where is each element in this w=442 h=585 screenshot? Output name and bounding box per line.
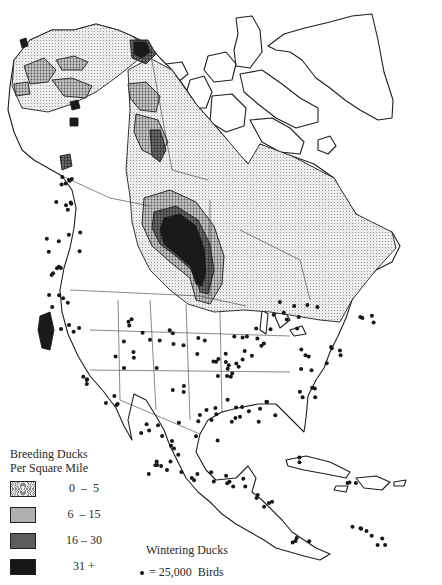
wintering-duck-dot [243, 485, 247, 489]
wintering-duck-dot [59, 266, 63, 270]
wintering-duck-dot [172, 447, 176, 451]
wintering-duck-dot [370, 534, 374, 538]
wintering-duck-dot [169, 444, 173, 448]
wintering-duck-dot [203, 338, 207, 342]
wintering-duck-dot [224, 352, 228, 356]
wintering-duck-dot [231, 484, 235, 488]
duck-distribution-map [0, 0, 442, 585]
wintering-duck-dot [210, 418, 214, 422]
wintering-duck-dot [301, 395, 305, 399]
wintering-duck-dot [81, 375, 85, 379]
wintering-duck-dot [205, 408, 209, 412]
wintering-duck-dot [60, 183, 64, 187]
wintering-duck-dot [195, 472, 199, 476]
wintering-duck-dot [269, 327, 273, 331]
breeding-legend-title-line1: Breeding Ducks [10, 447, 88, 461]
wintering-duck-dot [153, 463, 157, 467]
wintering-duck-dot [245, 335, 249, 339]
legend-label: 0 – 5 [54, 481, 114, 496]
wintering-duck-dot [370, 314, 374, 318]
wintering-duck-dot [351, 525, 355, 529]
legend-swatch-dark [10, 533, 36, 549]
wintering-duck-dot [265, 400, 269, 404]
caribbean-islands [286, 456, 406, 492]
wintering-legend-label: = 25,000 Birds [149, 565, 224, 579]
wintering-duck-dot [104, 401, 108, 405]
wintering-duck-dot [57, 293, 61, 297]
wintering-duck-dot [45, 237, 49, 241]
wintering-duck-dot [122, 340, 126, 344]
wintering-duck-dot [240, 405, 244, 409]
wintering-duck-dot [305, 303, 309, 307]
wintering-duck-dot [380, 537, 384, 541]
wintering-duck-dot [176, 453, 180, 457]
wintering-duck-dot [213, 406, 217, 410]
wintering-duck-dot [182, 390, 186, 394]
wintering-duck-dot [313, 395, 317, 399]
wintering-duck-dot [78, 249, 82, 253]
wintering-duck-dot [50, 305, 54, 309]
wintering-duck-dot [216, 439, 220, 443]
wintering-duck-dot [148, 338, 152, 342]
wintering-duck-dot [172, 342, 176, 346]
wintering-duck-dot [259, 344, 263, 348]
wintering-duck-dot [60, 175, 64, 179]
wintering-duck-dot [232, 335, 236, 339]
wintering-duck-dot [195, 352, 199, 356]
wintering-duck-dot [243, 349, 247, 353]
legend-label: 16 – 30 [54, 533, 114, 548]
wintering-duck-dot [297, 456, 301, 460]
wintering-legend-row: = 25,000 Birds [140, 565, 224, 580]
wintering-duck-dot [47, 250, 51, 254]
wintering-duck-dot [54, 200, 58, 204]
wintering-duck-dot [116, 402, 120, 406]
wintering-duck-dot [139, 431, 143, 435]
wintering-duck-dot [346, 481, 350, 485]
wintering-duck-dot [241, 477, 245, 481]
wintering-duck-dot [69, 202, 73, 206]
wintering-duck-dot [238, 415, 242, 419]
breeding-legend-title: Breeding Ducks Per Square Mile [10, 447, 88, 475]
wintering-duck-dot [194, 434, 198, 438]
legend-swatch-light [10, 481, 36, 497]
wintering-duck-dot [298, 460, 302, 464]
wintering-duck-dot [59, 327, 63, 331]
wintering-duck-dot [257, 420, 261, 424]
wintering-duck-dot [70, 177, 74, 181]
wintering-duck-dot [122, 366, 126, 370]
wintering-duck-dot [165, 468, 169, 472]
wintering-duck-dot [179, 470, 183, 474]
wintering-duck-dot [258, 407, 262, 411]
wintering-duck-dot [147, 472, 151, 476]
wintering-duck-dot [170, 439, 174, 443]
wintering-duck-dot [272, 313, 276, 317]
wintering-duck-dot [212, 480, 216, 484]
wintering-duck-dot [130, 317, 134, 321]
legend-label: 31 + [54, 559, 114, 574]
wintering-duck-dot [57, 239, 61, 243]
wintering-duck-dot [241, 357, 245, 361]
wintering-duck-dot [298, 390, 302, 394]
wintering-duck-dot [64, 203, 68, 207]
wintering-duck-dot [304, 353, 308, 357]
wintering-duck-dot [282, 311, 286, 315]
wintering-duck-dot [262, 505, 266, 509]
wintering-duck-dot [325, 361, 329, 365]
wintering-duck-dot [112, 394, 116, 398]
wintering-duck-dot [254, 327, 258, 331]
wintering-duck-dot [182, 384, 186, 388]
wintering-duck-dot [376, 543, 380, 547]
wintering-duck-dot [227, 363, 231, 367]
wintering-duck-dot [155, 366, 159, 370]
wintering-duck-dot [127, 320, 131, 324]
wintering-duck-dot [229, 375, 233, 379]
wintering-duck-dot [241, 335, 245, 339]
wintering-duck-dot [159, 464, 163, 468]
wintering-duck-dot [66, 208, 70, 212]
wintering-duck-dot [127, 323, 131, 327]
wintering-duck-dot [295, 536, 299, 540]
wintering-duck-dot [267, 501, 271, 505]
wintering-duck-dot [216, 374, 220, 378]
wintering-duck-dot [297, 315, 301, 319]
wintering-duck-dot [141, 331, 145, 335]
